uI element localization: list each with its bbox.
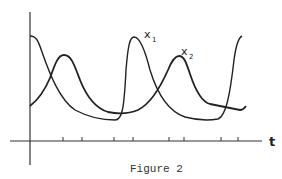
series-x2-line [30, 55, 246, 113]
x-axis-label: t [269, 134, 275, 149]
figure-canvas: x 1 x 2 t Figure 2 [0, 0, 282, 179]
label-x1-main: x [144, 28, 151, 41]
label-x1: x 1 [144, 28, 156, 44]
label-x2-sub: 2 [189, 53, 193, 61]
label-x1-sub: 1 [152, 36, 156, 44]
label-x2-main: x [181, 45, 188, 58]
figure-caption: Figure 2 [130, 163, 183, 175]
series-x1-line [30, 36, 242, 120]
